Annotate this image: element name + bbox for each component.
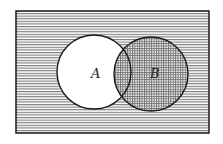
venn-diagram: A B: [0, 0, 223, 144]
set-b-label: B: [149, 66, 160, 81]
set-a-label: A: [90, 66, 100, 81]
